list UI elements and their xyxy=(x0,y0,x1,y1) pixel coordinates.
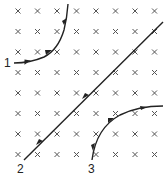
field-cross-icon xyxy=(94,111,99,116)
field-cross-icon xyxy=(35,132,40,137)
field-cross-icon xyxy=(16,29,21,34)
field-cross-icon xyxy=(74,91,79,96)
trajectory-label-3: 3 xyxy=(88,162,95,176)
field-cross-icon xyxy=(113,152,118,157)
trajectory-label-1: 1 xyxy=(4,56,11,70)
field-cross-icon xyxy=(133,91,138,96)
field-cross-icon xyxy=(35,111,40,116)
magnetic-field-crosses xyxy=(16,9,158,158)
field-cross-icon xyxy=(55,9,60,14)
field-cross-icon xyxy=(74,50,79,55)
field-cross-icon xyxy=(74,9,79,14)
field-cross-icon xyxy=(35,50,40,55)
field-cross-icon xyxy=(55,132,60,137)
magnetic-field-diagram: 1 2 3 xyxy=(0,0,166,176)
field-cross-icon xyxy=(152,91,157,96)
field-cross-icon xyxy=(74,152,79,157)
field-cross-icon xyxy=(94,91,99,96)
field-cross-icon xyxy=(74,111,79,116)
field-cross-icon xyxy=(152,9,157,14)
field-cross-icon xyxy=(74,29,79,34)
field-cross-icon xyxy=(113,9,118,14)
field-cross-icon xyxy=(55,91,60,96)
field-cross-icon xyxy=(94,9,99,14)
field-cross-icon xyxy=(55,111,60,116)
field-cross-icon xyxy=(133,152,138,157)
field-cross-icon xyxy=(113,50,118,55)
field-cross-icon xyxy=(133,70,138,75)
trajectory-1 xyxy=(14,4,68,65)
field-cross-icon xyxy=(16,91,21,96)
field-cross-icon xyxy=(74,70,79,75)
field-cross-icon xyxy=(152,70,157,75)
field-cross-icon xyxy=(35,29,40,34)
field-cross-icon xyxy=(74,132,79,137)
field-cross-icon xyxy=(16,70,21,75)
field-cross-icon xyxy=(16,9,21,14)
field-cross-icon xyxy=(16,111,21,116)
field-cross-icon xyxy=(35,70,40,75)
field-cross-icon xyxy=(152,50,157,55)
field-cross-icon xyxy=(133,132,138,137)
field-cross-icon xyxy=(113,132,118,137)
field-cross-icon xyxy=(16,152,21,157)
field-cross-icon xyxy=(16,132,21,137)
field-cross-icon xyxy=(55,152,60,157)
field-cross-icon xyxy=(94,152,99,157)
field-cross-icon xyxy=(94,29,99,34)
field-cross-icon xyxy=(55,29,60,34)
trajectory-label-2: 2 xyxy=(17,162,24,176)
field-cross-icon xyxy=(16,50,21,55)
field-cross-icon xyxy=(152,152,157,157)
field-cross-icon xyxy=(113,91,118,96)
field-cross-icon xyxy=(133,9,138,14)
field-cross-icon xyxy=(35,91,40,96)
field-cross-icon xyxy=(55,50,60,55)
field-cross-icon xyxy=(152,132,157,137)
field-cross-icon xyxy=(94,132,99,137)
field-cross-icon xyxy=(55,70,60,75)
field-cross-icon xyxy=(133,111,138,116)
trajectory-2 xyxy=(24,22,163,160)
field-cross-icon xyxy=(152,111,157,116)
field-cross-icon xyxy=(113,29,118,34)
field-cross-icon xyxy=(94,50,99,55)
field-cross-icon xyxy=(133,29,138,34)
field-cross-icon xyxy=(113,111,118,116)
field-cross-icon xyxy=(35,152,40,157)
field-cross-icon xyxy=(94,70,99,75)
field-cross-icon xyxy=(35,9,40,14)
